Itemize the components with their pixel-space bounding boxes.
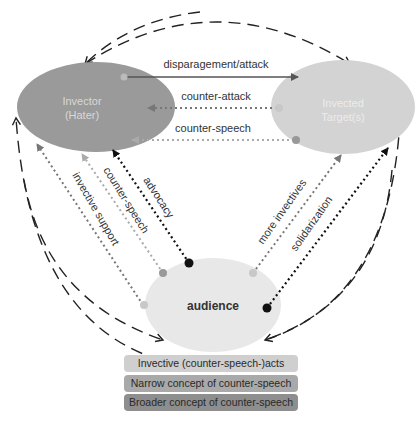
audience-label: audience — [187, 299, 239, 313]
legend-broader-concept: Broader concept of counter-speech — [124, 394, 298, 411]
arc-left — [16, 118, 160, 360]
legend-narrow-concept: Narrow concept of counter-speech — [124, 375, 298, 392]
arc-right-down — [265, 170, 392, 340]
label-advocacy: advocacy — [141, 175, 177, 221]
invected-label-line1: Invected — [322, 97, 364, 109]
label-counter-speech-top: counter-speech — [175, 122, 251, 134]
label-counter-attack: counter-attack — [181, 90, 251, 102]
arc-top-back — [85, 12, 200, 64]
legend-invective-acts: Invective (counter-speech-)acts — [124, 355, 298, 372]
edge-more-invectives — [253, 155, 341, 273]
invector-label-line2: (Hater) — [65, 109, 99, 121]
invector-label-line1: Invector — [62, 95, 101, 107]
label-disparagement: disparagement/attack — [163, 58, 269, 70]
edge-invective-support — [37, 144, 143, 305]
invected-label-line2: Target(s) — [321, 111, 364, 123]
